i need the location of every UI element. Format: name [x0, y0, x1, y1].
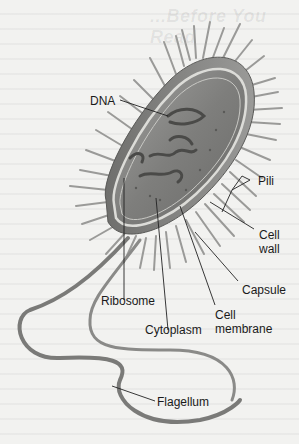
- label-pili: Pili: [258, 174, 274, 188]
- label-capsule: Capsule: [242, 283, 286, 297]
- label-cell-wall: Cell wall: [259, 228, 280, 256]
- cell-body: [105, 57, 254, 234]
- label-dna: DNA: [90, 94, 115, 108]
- label-ribosome: Ribosome: [101, 294, 155, 308]
- label-cytoplasm: Cytoplasm: [145, 323, 202, 337]
- bacterium-illustration: [0, 0, 299, 444]
- label-cell-membrane: Cell membrane: [215, 308, 272, 336]
- label-flagellum: Flagellum: [157, 395, 209, 409]
